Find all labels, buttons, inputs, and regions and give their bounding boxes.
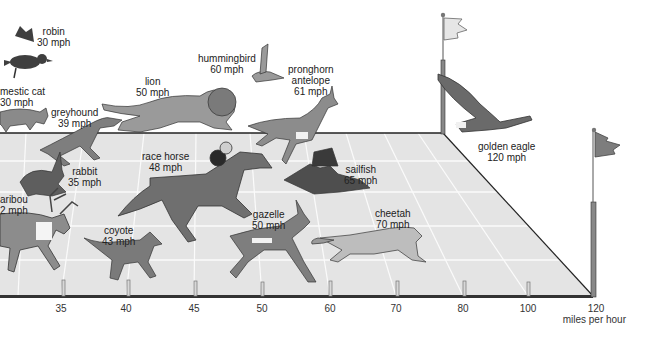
greyhound-label: greyhound39 mph (51, 107, 98, 129)
tick-60: 60 (324, 303, 335, 314)
tick-80: 80 (457, 303, 468, 314)
speed-diagram: robin30 mph mestic cat30 mph greyhound39… (0, 0, 656, 345)
lion-label: lion50 mph (136, 76, 169, 98)
rabbit-label: rabbit35 mph (68, 166, 101, 188)
hummingbird-label: hummingbird60 mph (198, 53, 256, 75)
tick-35: 35 (55, 303, 66, 314)
domestic-cat-label: mestic cat30 mph (0, 86, 45, 108)
tick-50: 50 (256, 303, 267, 314)
axis-unit-label: miles per hour (563, 314, 626, 325)
tick-100: 100 (520, 303, 537, 314)
gazelle-label: gazelle50 mph (252, 209, 285, 231)
tick-40: 40 (120, 303, 131, 314)
hummingbird-illustration (252, 44, 284, 82)
caribou-label: aribou2 mph (0, 194, 28, 216)
baseline (0, 295, 593, 298)
race-horse-label: race horse48 mph (142, 151, 189, 173)
cheetah-label: cheetah70 mph (375, 208, 411, 230)
golden-eagle-illustration (438, 74, 532, 132)
flag-icon (444, 18, 467, 40)
pronghorn-antelope-label: pronghornantelope61 mph (288, 64, 334, 97)
robin-label: robin30 mph (37, 26, 70, 48)
coyote-label: coyote43 mph (102, 225, 135, 247)
tick-45: 45 (188, 303, 199, 314)
golden-eagle-label: golden eagle120 mph (478, 141, 535, 163)
sailfish-label: sailfish65 mph (344, 164, 377, 186)
domestic-cat-illustration (0, 108, 48, 132)
finish-flag-icon (595, 132, 620, 157)
tick-120: 120 (588, 303, 605, 314)
tick-70: 70 (390, 303, 401, 314)
